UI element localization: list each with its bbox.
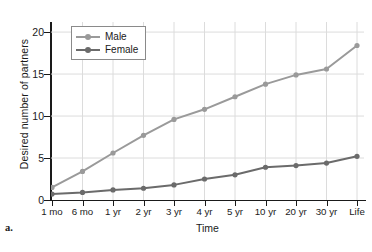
y-tick-mark	[44, 116, 50, 117]
data-point-male	[171, 117, 176, 122]
data-point-male	[80, 169, 85, 174]
data-point-female	[324, 160, 329, 165]
data-point-male	[141, 133, 146, 138]
legend-marker-male-icon	[76, 31, 100, 42]
legend-item-male: Male	[76, 30, 138, 43]
data-point-male	[324, 66, 329, 71]
legend-label-male: Male	[105, 31, 127, 42]
data-point-female	[110, 187, 115, 192]
data-point-male	[110, 150, 115, 155]
x-axis-line	[50, 200, 366, 201]
chart-legend: Male Female	[71, 26, 146, 60]
y-tick-label: 15	[24, 68, 44, 80]
data-point-male	[293, 72, 298, 77]
y-tick-label: 10	[24, 110, 44, 122]
y-tick-mark	[44, 32, 50, 33]
data-point-female	[80, 190, 85, 195]
y-tick-mark	[44, 158, 50, 159]
legend-label-female: Female	[105, 44, 138, 55]
y-tick-label: 0	[24, 194, 44, 206]
data-point-female	[232, 172, 237, 177]
data-point-male	[354, 43, 359, 48]
data-point-female	[354, 154, 359, 159]
x-tick-label: Life	[335, 206, 372, 217]
data-point-female	[293, 163, 298, 168]
data-point-female	[202, 176, 207, 181]
data-point-male	[263, 82, 268, 87]
data-point-male	[202, 107, 207, 112]
data-point-female	[263, 165, 268, 170]
panel-letter: a.	[5, 222, 13, 233]
figure-panel-a: Desired number of partners 05101520 Male…	[0, 0, 372, 252]
data-point-female	[171, 182, 176, 187]
legend-item-female: Female	[76, 43, 138, 56]
legend-marker-female-icon	[76, 44, 100, 55]
y-tick-mark	[44, 74, 50, 75]
data-point-female	[51, 192, 55, 197]
y-tick-mark	[44, 200, 50, 201]
x-axis-title: Time	[51, 222, 364, 234]
y-tick-label: 20	[24, 26, 44, 38]
data-point-male	[232, 94, 237, 99]
data-point-female	[141, 186, 146, 191]
y-tick-label: 5	[24, 152, 44, 164]
